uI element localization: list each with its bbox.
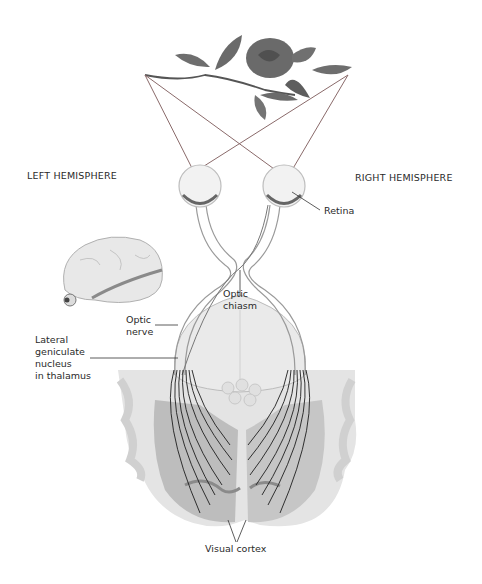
rose-icon <box>145 35 352 120</box>
label-optic-chiasm: Optic chiasm <box>223 288 257 312</box>
label-optic-nerve: Optic nerve <box>126 314 153 338</box>
eye-right <box>263 165 305 207</box>
brain-side-view-icon <box>64 237 163 306</box>
label-left-hemisphere: LEFT HEMISPHERE <box>27 170 117 182</box>
label-lateral-geniculate-nucleus: Lateral geniculate nucleus in thalamus <box>35 334 91 382</box>
eye-left <box>179 165 221 207</box>
label-retina: Retina <box>324 205 354 217</box>
label-right-hemisphere: RIGHT HEMISPHERE <box>355 172 453 184</box>
light-rays <box>145 75 348 182</box>
label-visual-cortex: Visual cortex <box>205 543 266 555</box>
